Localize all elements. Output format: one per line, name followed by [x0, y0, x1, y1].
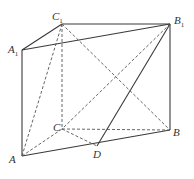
- label-b1: B1: [174, 15, 184, 29]
- label-c: C: [53, 122, 60, 133]
- label-a: A: [9, 154, 16, 165]
- edge-c-b: [62, 129, 170, 130]
- label-d: D: [93, 149, 101, 160]
- label-b: B: [173, 127, 180, 138]
- label-a1: A1: [8, 44, 18, 58]
- prism-diagram: A1 C1 B1 A C B D: [0, 0, 194, 179]
- label-c1: C1: [52, 11, 63, 25]
- edge-a-c1: [22, 24, 62, 156]
- edge-b1-d: [97, 24, 170, 146]
